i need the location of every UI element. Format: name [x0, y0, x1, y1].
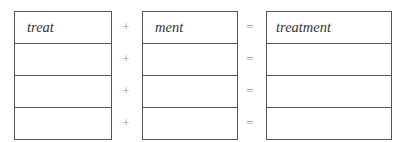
base-word-cell[interactable]: [15, 44, 111, 76]
plus-sign: +: [119, 51, 133, 67]
base-word-cell[interactable]: [15, 108, 111, 140]
suffix-cell[interactable]: ment: [143, 12, 237, 44]
suffix-cell[interactable]: [143, 108, 237, 140]
base-word-column: treat: [14, 11, 112, 140]
base-word-cell[interactable]: treat: [15, 12, 111, 44]
suffix-cell[interactable]: [143, 44, 237, 76]
plus-sign: +: [119, 83, 133, 99]
result-cell[interactable]: [267, 108, 391, 140]
suffix-cell[interactable]: [143, 76, 237, 108]
plus-sign: +: [119, 115, 133, 131]
base-word-cell[interactable]: [15, 76, 111, 108]
equals-sign: =: [243, 83, 257, 99]
result-cell[interactable]: treatment: [267, 12, 391, 44]
equals-sign: =: [243, 115, 257, 131]
equals-sign: =: [243, 19, 257, 35]
suffix-column: ment: [142, 11, 238, 140]
result-cell[interactable]: [267, 76, 391, 108]
result-cell[interactable]: [267, 44, 391, 76]
result-column: treatment: [266, 11, 392, 140]
plus-sign: +: [119, 19, 133, 35]
equals-sign: =: [243, 51, 257, 67]
